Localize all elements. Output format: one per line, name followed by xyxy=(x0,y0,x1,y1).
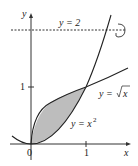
origin-label: 0 xyxy=(27,147,32,158)
label-sqrt-prefix: y = xyxy=(98,88,113,99)
y-axis-label: y xyxy=(21,8,27,19)
label-sqrt-arg: x xyxy=(122,88,128,99)
shaded-region xyxy=(31,87,86,144)
x-axis-label: x xyxy=(123,147,129,158)
x-tick-label-1: 1 xyxy=(84,147,89,158)
y-tick-label-1: 1 xyxy=(20,81,25,92)
y-axis-arrow-icon xyxy=(29,13,33,18)
label-parabola-exp: 2 xyxy=(93,116,97,124)
label-parabola: y = x xyxy=(70,118,92,129)
label-y-equals-2: y = 2 xyxy=(58,17,80,28)
x-axis-arrow-icon xyxy=(126,142,131,146)
volume-of-revolution-diagram: y x 0 1 1 y = 2 y = x y = x 2 xyxy=(0,0,138,166)
